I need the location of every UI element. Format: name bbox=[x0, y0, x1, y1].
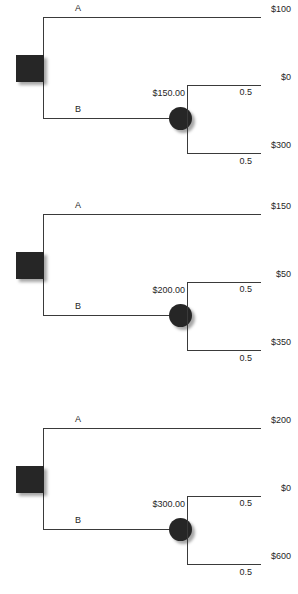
tree-2-outcome-2-line bbox=[187, 350, 261, 351]
tree-2-outcome-1-line bbox=[187, 282, 261, 283]
tree-3-branch-a-line bbox=[43, 428, 261, 429]
tree-3-branch-a-label: A bbox=[66, 414, 90, 425]
tree-2-branch-a-line bbox=[43, 214, 261, 215]
tree-2-expected-value-label: $200.00 bbox=[119, 285, 185, 296]
tree-3-outcome-2-line bbox=[187, 564, 261, 565]
tree-2-probability-outcome-2: 0.5 bbox=[212, 353, 252, 364]
tree-3-decision-node[interactable] bbox=[16, 466, 44, 493]
tree-1-branch-a-line bbox=[43, 17, 261, 18]
tree-2-chance-fan-line bbox=[187, 282, 188, 350]
tree-2-payoff-outcome-2: $350 bbox=[235, 337, 291, 348]
tree-3-chance-fan-line bbox=[187, 496, 188, 564]
decision-tree-3: A B $300.00 $200 $0 0.5 $600 0.5 bbox=[0, 394, 298, 591]
tree-1-payoff-a: $100 bbox=[235, 4, 291, 15]
decision-tree-diagram: A B $150.00 $100 $0 0.5 $300 0.5 A B $20… bbox=[0, 0, 298, 594]
tree-1-decision-node[interactable] bbox=[16, 55, 44, 82]
tree-3-chance-node[interactable] bbox=[169, 518, 192, 541]
tree-1-branch-b-label: B bbox=[66, 104, 90, 115]
tree-1-payoff-outcome-2: $300 bbox=[235, 140, 291, 151]
tree-3-expected-value-label: $300.00 bbox=[119, 499, 185, 510]
tree-2-decision-node[interactable] bbox=[16, 252, 44, 279]
tree-1-branch-a-label: A bbox=[66, 3, 90, 14]
tree-1-outcome-1-line bbox=[187, 85, 261, 86]
tree-2-payoff-a: $150 bbox=[235, 201, 291, 212]
tree-3-payoff-a: $200 bbox=[235, 415, 291, 426]
tree-2-branch-b-label: B bbox=[66, 301, 90, 312]
tree-1-chance-node[interactable] bbox=[169, 107, 192, 130]
tree-1-outcome-2-line bbox=[187, 153, 261, 154]
tree-3-branch-b-line bbox=[43, 529, 187, 530]
tree-3-outcome-1-line bbox=[187, 496, 261, 497]
tree-2-probability-outcome-1: 0.5 bbox=[212, 284, 252, 295]
tree-1-payoff-outcome-1: $0 bbox=[235, 72, 291, 83]
tree-2-branch-b-line bbox=[43, 315, 187, 316]
tree-1-chance-fan-line bbox=[187, 85, 188, 153]
tree-1-branch-b-line bbox=[43, 118, 187, 119]
tree-3-probability-outcome-1: 0.5 bbox=[212, 498, 252, 509]
tree-3-payoff-outcome-2: $600 bbox=[235, 551, 291, 562]
tree-1-probability-outcome-2: 0.5 bbox=[212, 156, 252, 167]
tree-2-branch-a-label: A bbox=[66, 200, 90, 211]
tree-3-probability-outcome-2: 0.5 bbox=[212, 567, 252, 578]
tree-2-payoff-outcome-1: $50 bbox=[235, 269, 291, 280]
tree-2-chance-node[interactable] bbox=[169, 304, 192, 327]
tree-1-expected-value-label: $150.00 bbox=[119, 88, 185, 99]
tree-3-payoff-outcome-1: $0 bbox=[235, 483, 291, 494]
decision-tree-1: A B $150.00 $100 $0 0.5 $300 0.5 bbox=[0, 0, 298, 197]
tree-1-probability-outcome-1: 0.5 bbox=[212, 87, 252, 98]
tree-3-branch-b-label: B bbox=[66, 515, 90, 526]
decision-tree-2: A B $200.00 $150 $50 0.5 $350 0.5 bbox=[0, 197, 298, 394]
